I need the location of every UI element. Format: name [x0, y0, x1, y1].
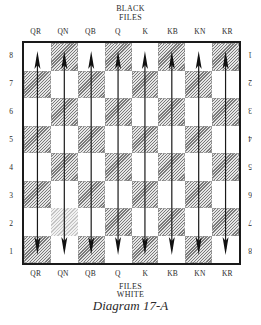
top-file-labels: QR QN QB Q K KB KN KR [22, 27, 241, 36]
file-label: KB [159, 27, 186, 36]
double-arrow-icon [142, 51, 148, 255]
double-arrow-icon [196, 51, 202, 255]
rank-label: 3 [6, 181, 16, 209]
file-label: Q [104, 269, 131, 278]
rank-label: 5 [245, 153, 255, 181]
rank-label: 6 [245, 181, 255, 209]
file-label: QN [49, 27, 76, 36]
rank-label: 6 [6, 97, 16, 125]
file-arrows [24, 43, 239, 263]
rank-label: 5 [6, 125, 16, 153]
file-label: K [132, 269, 159, 278]
diagram-caption: Diagram 17-A [0, 298, 261, 314]
right-rank-labels: 1 2 3 4 5 6 7 8 [245, 41, 255, 265]
file-label: KN [186, 269, 213, 278]
file-label: Q [104, 27, 131, 36]
double-arrow-icon [169, 51, 175, 255]
rank-label: 2 [6, 209, 16, 237]
bottom-file-labels: QR QN QB Q K KB KN KR [22, 269, 241, 278]
chess-board [22, 41, 241, 265]
file-label: KR [214, 27, 241, 36]
rank-label: 2 [245, 69, 255, 97]
file-label: KR [214, 269, 241, 278]
double-arrow-icon [34, 51, 40, 255]
rank-label: 1 [6, 237, 16, 265]
rank-label: 7 [245, 209, 255, 237]
file-label: KB [159, 269, 186, 278]
file-label: KN [186, 27, 213, 36]
rank-label: 4 [245, 125, 255, 153]
double-arrow-icon [61, 51, 67, 255]
rank-label: 3 [245, 97, 255, 125]
rank-label: 8 [245, 237, 255, 265]
double-arrow-icon [223, 51, 229, 255]
file-label: QR [22, 269, 49, 278]
rank-label: 1 [245, 41, 255, 69]
file-label: QR [22, 27, 49, 36]
files-label-top: FILES [0, 13, 261, 22]
left-rank-labels: 8 7 6 5 4 3 2 1 [6, 41, 16, 265]
rank-label: 8 [6, 41, 16, 69]
rank-label: 7 [6, 69, 16, 97]
black-label: BLACK [0, 4, 261, 13]
file-label: K [132, 27, 159, 36]
double-arrow-icon [88, 51, 94, 255]
file-label: QB [77, 269, 104, 278]
rank-label: 4 [6, 153, 16, 181]
double-arrow-icon [115, 51, 121, 255]
file-label: QN [49, 269, 76, 278]
file-label: QB [77, 27, 104, 36]
